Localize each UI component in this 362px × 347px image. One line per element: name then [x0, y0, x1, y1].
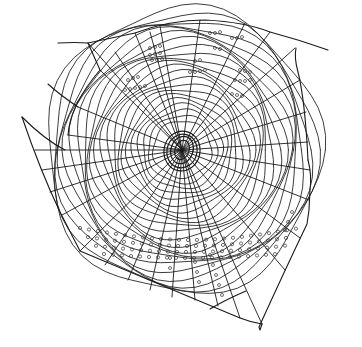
dew-droplet — [194, 244, 197, 247]
dew-droplet — [229, 249, 232, 252]
dew-droplet — [267, 232, 270, 235]
dew-droplet — [291, 211, 294, 214]
dew-droplet — [273, 252, 276, 255]
spiral-ring — [87, 53, 282, 253]
dew-droplet — [240, 235, 243, 238]
dew-droplet — [231, 236, 234, 239]
dew-droplet — [121, 247, 124, 250]
dew-droplet — [219, 31, 222, 34]
dew-droplet — [127, 79, 130, 82]
dew-droplet — [264, 253, 267, 256]
dew-droplet — [218, 284, 221, 287]
dew-droplet — [138, 255, 141, 258]
dew-droplet — [137, 76, 140, 79]
dew-droplet — [148, 249, 151, 252]
dew-droplet — [211, 250, 214, 253]
dew-droplet — [238, 248, 241, 251]
dew-droplet — [236, 94, 239, 97]
dew-droplet — [198, 281, 201, 284]
dew-droplet — [248, 241, 251, 244]
dew-droplet — [195, 238, 198, 241]
dew-droplet — [169, 257, 172, 260]
dew-droplet — [186, 238, 189, 241]
dew-droplet — [221, 294, 224, 297]
dew-droplet — [114, 232, 117, 235]
dew-droplet — [239, 242, 242, 245]
dew-droplet — [165, 256, 168, 259]
dew-droplet — [213, 238, 216, 241]
dew-droplet — [239, 69, 242, 72]
dew-droplet — [169, 267, 172, 270]
dew-droplet — [241, 36, 244, 39]
dew-droplet — [159, 45, 162, 48]
dew-droplet — [189, 71, 192, 74]
dew-droplet — [196, 271, 199, 274]
dew-droplet — [103, 245, 106, 248]
dew-droplet — [274, 245, 277, 248]
dew-droplet — [294, 227, 297, 230]
spider-web-drawing — [0, 0, 362, 347]
dew-droplet — [283, 244, 286, 247]
dew-droplet — [276, 230, 279, 233]
dew-droplet — [255, 254, 258, 257]
dew-droplet — [102, 252, 105, 255]
dew-droplet — [258, 233, 261, 236]
dew-droplet — [122, 240, 125, 243]
dew-droplet — [204, 69, 207, 72]
dew-droplet — [131, 241, 134, 244]
dew-droplet — [147, 255, 150, 258]
dew-droplet — [244, 80, 247, 83]
dew-droplet — [95, 237, 98, 240]
dew-droplet — [246, 254, 249, 257]
dew-droplet — [221, 243, 224, 246]
dew-droplet — [215, 274, 218, 277]
dew-droplet — [249, 234, 252, 237]
dew-droplet — [87, 228, 90, 231]
dew-droplet — [150, 237, 153, 240]
dew-droplet — [120, 254, 123, 257]
dew-droplet — [132, 235, 135, 238]
dew-droplet — [94, 244, 97, 247]
dew-droplet — [199, 59, 202, 62]
dew-droplet — [212, 264, 215, 267]
dew-droplet — [124, 89, 127, 92]
